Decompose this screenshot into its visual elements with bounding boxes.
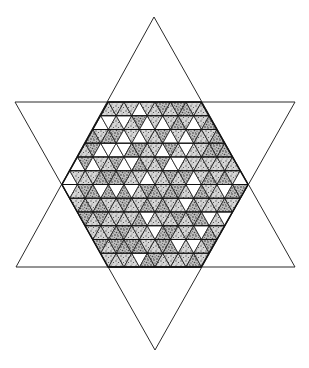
hexagram-diagram <box>0 0 309 368</box>
